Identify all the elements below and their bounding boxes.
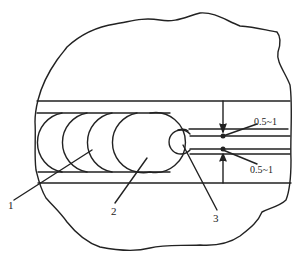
nugget-front <box>137 113 185 173</box>
weld-cross-section-diagram <box>0 0 300 261</box>
leader-3 <box>183 145 217 210</box>
callout-2: 2 <box>111 206 117 217</box>
leader-lower <box>223 150 257 164</box>
callout-3: 3 <box>213 213 219 224</box>
dimension-upper: 0.5~1 <box>254 117 277 127</box>
dim-dot-upper <box>221 134 226 139</box>
leader-2 <box>115 158 147 203</box>
callout-1: 1 <box>8 200 14 211</box>
dimension-lower: 0.5~1 <box>250 165 273 175</box>
nugget-4 <box>112 113 137 172</box>
leader-1 <box>14 150 92 200</box>
nugget-2 <box>62 113 87 172</box>
break-outline <box>35 13 291 250</box>
nugget-3 <box>87 113 112 172</box>
nugget-1 <box>37 113 62 172</box>
dim-dot-lower <box>221 147 226 152</box>
crater <box>169 130 190 154</box>
leader-upper <box>223 124 257 136</box>
